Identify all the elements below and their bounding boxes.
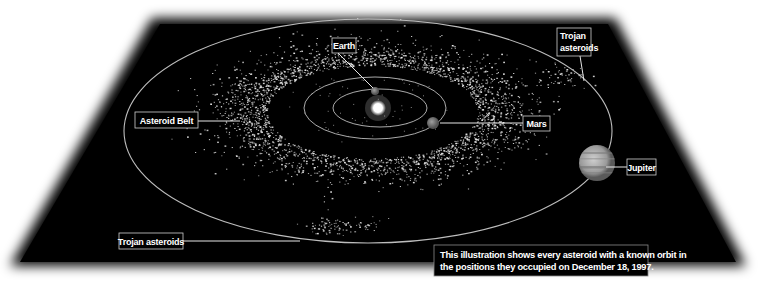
label-asteroid-belt: Asteroid Belt <box>135 112 198 128</box>
trojan-top-label-line1: Trojan <box>560 31 586 41</box>
asteroid-diagram: Earth Trojan asteroids Asteroid Belt Mar… <box>0 0 767 284</box>
trojan-top-label-line2: asteroids <box>560 43 598 53</box>
mars-label-text: Mars <box>526 119 546 129</box>
jupiter-label-text: Jupiter <box>627 163 656 173</box>
caption-line2: the positions they occupied on December … <box>440 262 654 272</box>
caption-line1: This illustration shows every asteroid w… <box>440 250 687 260</box>
sun <box>370 100 386 116</box>
label-earth: Earth <box>332 38 356 53</box>
trojan-bottom-label-text: Trojan asteroids <box>118 237 185 247</box>
earth-label-text: Earth <box>333 41 355 51</box>
label-jupiter: Jupiter <box>627 159 656 175</box>
mars <box>427 117 439 129</box>
label-trojan-bottom: Trojan asteroids <box>118 233 185 249</box>
asteroid-belt-label-text: Asteroid Belt <box>140 116 194 126</box>
label-mars: Mars <box>523 116 550 131</box>
earth <box>371 87 379 95</box>
